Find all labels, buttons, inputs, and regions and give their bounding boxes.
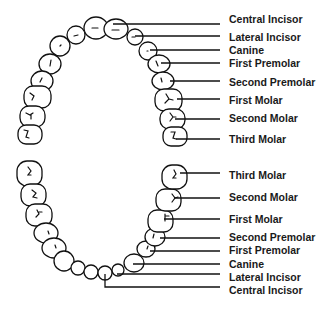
label-upper-first-molar: First Molar [229, 94, 283, 106]
lower-right-second-molar [156, 189, 181, 211]
lower-arch [17, 161, 187, 280]
label-lower-second-premolar: Second Premolar [229, 231, 315, 243]
upper-right-third-molar [163, 127, 187, 146]
upper-left-third-molar [18, 125, 42, 144]
label-upper-lateral-incisor: Lateral Incisor [229, 31, 301, 43]
lower-right-third-molar [162, 165, 187, 189]
upper-right-first-premolar [148, 55, 170, 73]
label-upper-central-incisor: Central Incisor [229, 13, 303, 25]
label-lower-third-molar: Third Molar [229, 169, 286, 181]
label-lower-lateral-incisor: Lateral Incisor [229, 271, 301, 283]
lower-left-second-molar [21, 184, 46, 206]
label-upper-second-molar: Second Molar [229, 112, 298, 124]
label-upper-first-premolar: First Premolar [229, 57, 300, 69]
lower-right-first-molar [148, 210, 173, 232]
label-lower-second-molar: Second Molar [229, 191, 298, 203]
lower-right-canine [124, 254, 144, 272]
dental-arch-diagram [0, 0, 328, 310]
label-lower-first-molar: First Molar [229, 213, 283, 225]
lower-left-central-incisor [84, 265, 98, 279]
upper-right-central-incisor [104, 19, 128, 39]
leader-lines [105, 24, 220, 287]
label-upper-canine: Canine [229, 44, 264, 56]
label-upper-third-molar: Third Molar [229, 133, 286, 145]
label-upper-second-premolar: Second Premolar [229, 76, 315, 88]
label-lower-canine: Canine [229, 258, 264, 270]
label-lower-central-incisor: Central Incisor [229, 284, 303, 296]
label-lower-first-premolar: First Premolar [229, 244, 300, 256]
lower-left-lateral-incisor [71, 261, 85, 275]
upper-left-first-molar [24, 86, 51, 108]
upper-left-second-molar [20, 106, 45, 127]
